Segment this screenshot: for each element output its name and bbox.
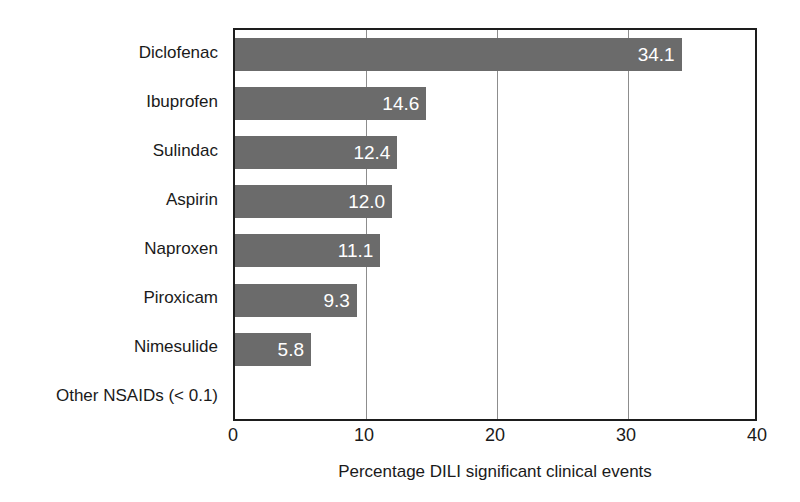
bar-value-label: 12.0: [348, 192, 392, 211]
category-label: Diclofenac: [0, 28, 218, 77]
plot-area: 34.1 14.6 12.4 12.0 11.1: [233, 28, 757, 421]
category-label: Nimesulide: [0, 323, 218, 372]
x-tick-label: 20: [485, 425, 505, 446]
x-axis-title: Percentage DILI significant clinical eve…: [233, 462, 757, 482]
x-axis-tick-labels: 0 10 20 30 40: [233, 425, 757, 451]
bar-naproxen: 11.1: [235, 234, 380, 267]
bar-diclofenac: 34.1: [235, 38, 682, 71]
category-label: Sulindac: [0, 126, 218, 175]
x-tick-label: 30: [616, 425, 636, 446]
bar-row: 5.8: [235, 325, 755, 374]
bar-row: 9.3: [235, 276, 755, 325]
bar-row: 14.6: [235, 79, 755, 128]
bar-value-label: 12.4: [353, 143, 397, 162]
bar-nimesulide: 5.8: [235, 333, 311, 366]
bar-row: 34.1: [235, 30, 755, 79]
bar-row: 12.0: [235, 177, 755, 226]
category-label: Piroxicam: [0, 274, 218, 323]
bar-row: 12.4: [235, 128, 755, 177]
bar-value-label: 11.1: [338, 241, 381, 260]
bar-value-label: 5.8: [278, 340, 311, 359]
bar-value-label: 14.6: [382, 94, 426, 113]
bar-value-label: 9.3: [323, 291, 356, 310]
bar-rows: 34.1 14.6 12.4 12.0 11.1: [235, 30, 755, 419]
category-label: Naproxen: [0, 224, 218, 273]
category-label: Ibuprofen: [0, 77, 218, 126]
bar-row: [235, 374, 755, 423]
x-tick-label: 40: [747, 425, 767, 446]
bar-value-label: 34.1: [638, 45, 682, 64]
bar-aspirin: 12.0: [235, 185, 392, 218]
category-axis-labels: Diclofenac Ibuprofen Sulindac Aspirin Na…: [0, 28, 218, 421]
x-tick-label: 0: [228, 425, 238, 446]
bar-ibuprofen: 14.6: [235, 87, 426, 120]
category-label: Aspirin: [0, 175, 218, 224]
x-tick-label: 10: [354, 425, 374, 446]
bar-sulindac: 12.4: [235, 136, 397, 169]
category-label: Other NSAIDs (< 0.1): [0, 372, 218, 421]
bar-chart-figure: Diclofenac Ibuprofen Sulindac Aspirin Na…: [0, 0, 800, 502]
bar-piroxicam: 9.3: [235, 284, 357, 317]
bar-row: 11.1: [235, 226, 755, 275]
